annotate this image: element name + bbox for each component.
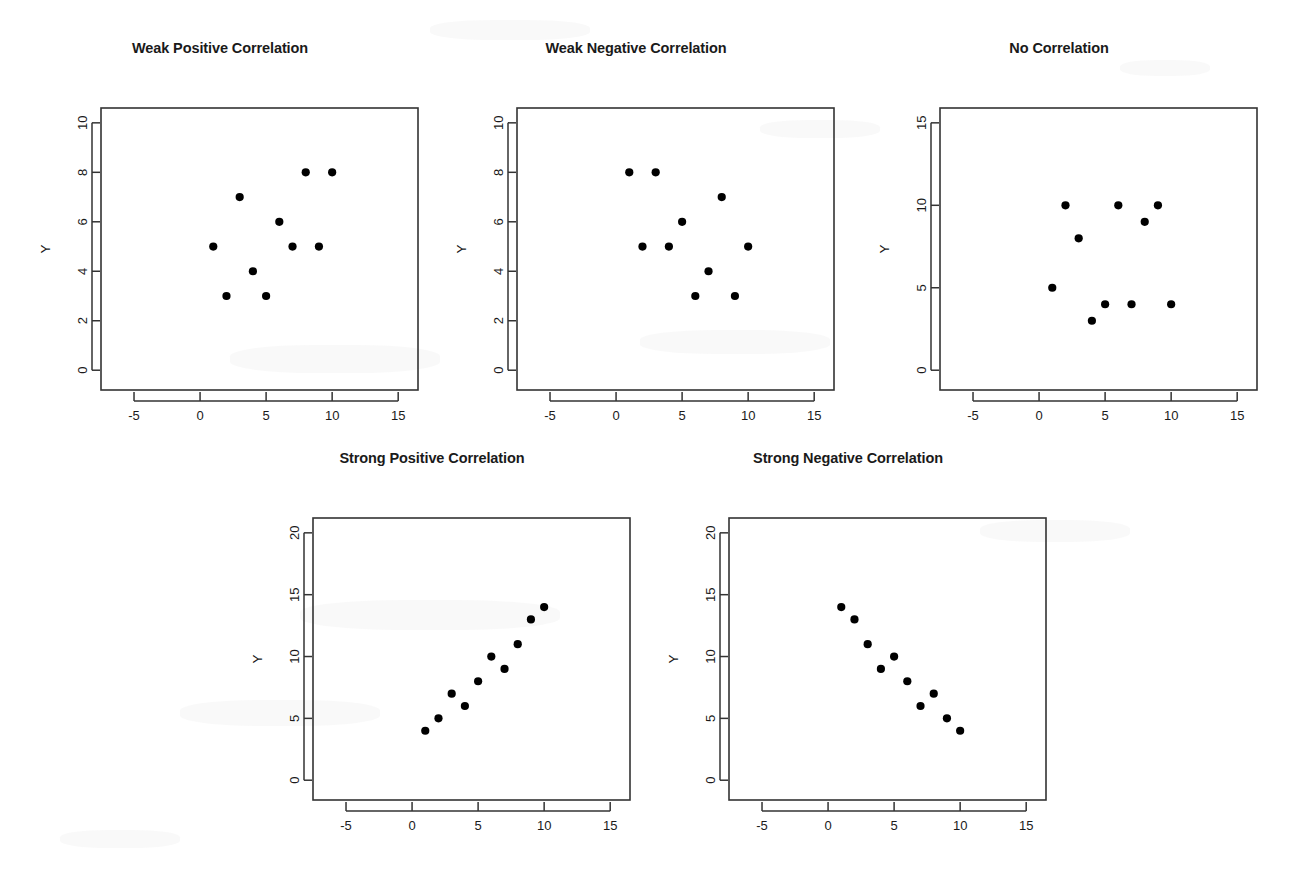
data-point (302, 168, 310, 176)
data-point (916, 702, 924, 710)
y-tick-label: 15 (915, 116, 930, 130)
data-point (540, 603, 548, 611)
y-tick-label: 0 (76, 367, 91, 374)
chart-panel-no-correlation: No Correlation051015-5051015XY (839, 28, 1279, 433)
x-tick-label: 10 (325, 408, 339, 423)
data-point (527, 615, 535, 623)
chart-panel-weak-negative: Weak Negative Correlation0246810-5051015… (416, 28, 856, 433)
y-tick-label: 15 (288, 587, 303, 601)
y-tick-label: 10 (76, 116, 91, 130)
y-axis-title: Y (666, 654, 681, 663)
data-point (236, 193, 244, 201)
y-tick-label: 4 (492, 268, 507, 275)
data-point (1101, 300, 1109, 308)
y-tick-label: 5 (704, 715, 719, 722)
y-tick-label: 0 (704, 777, 719, 784)
data-point (678, 218, 686, 226)
x-tick-label: 15 (603, 818, 617, 833)
data-point (691, 292, 699, 300)
data-point (1154, 201, 1162, 209)
data-point (474, 677, 482, 685)
plot-border (940, 108, 1257, 390)
data-point (315, 242, 323, 250)
plot-area-weak-negative: 0246810-5051015XY (416, 28, 856, 433)
data-point (665, 242, 673, 250)
y-tick-label: 0 (915, 367, 930, 374)
data-point (943, 714, 951, 722)
plot-border (729, 518, 1046, 800)
data-point (434, 714, 442, 722)
y-tick-label: 0 (492, 367, 507, 374)
data-point (850, 615, 858, 623)
x-tick-label: -5 (340, 818, 352, 833)
data-point (718, 193, 726, 201)
scan-artifact (60, 830, 180, 848)
x-tick-label: 0 (824, 818, 831, 833)
data-point (1048, 284, 1056, 292)
x-tick-label: 5 (474, 818, 481, 833)
data-point (275, 218, 283, 226)
data-point (514, 640, 522, 648)
plot-border (517, 108, 834, 390)
data-point (500, 665, 508, 673)
plot-border (313, 518, 630, 800)
chart-panel-strong-negative: Strong Negative Correlation05101520-5051… (628, 438, 1068, 843)
data-point (877, 665, 885, 673)
x-tick-label: 0 (612, 408, 619, 423)
y-tick-label: 2 (76, 317, 91, 324)
y-tick-label: 10 (915, 198, 930, 212)
x-tick-label: 5 (678, 408, 685, 423)
data-point (249, 267, 257, 275)
y-tick-label: 5 (288, 715, 303, 722)
data-point (625, 168, 633, 176)
data-point (744, 242, 752, 250)
y-tick-label: 5 (915, 284, 930, 291)
x-tick-label: -5 (756, 818, 768, 833)
y-tick-label: 0 (288, 777, 303, 784)
y-tick-label: 4 (76, 268, 91, 275)
y-axis-title: Y (877, 244, 892, 253)
data-point (903, 677, 911, 685)
data-point (704, 267, 712, 275)
data-point (638, 242, 646, 250)
data-point (222, 292, 230, 300)
data-point (1061, 201, 1069, 209)
y-tick-label: 10 (288, 649, 303, 663)
x-tick-label: 0 (196, 408, 203, 423)
data-point (1167, 300, 1175, 308)
y-axis-title: Y (454, 244, 469, 253)
data-point (1141, 218, 1149, 226)
data-point (461, 702, 469, 710)
plot-area-no-correlation: 051015-5051015XY (839, 28, 1279, 433)
y-tick-label: 15 (704, 587, 719, 601)
y-tick-label: 20 (288, 526, 303, 540)
x-tick-label: -5 (128, 408, 140, 423)
y-tick-label: 8 (76, 169, 91, 176)
data-point (448, 690, 456, 698)
x-tick-label: 5 (890, 818, 897, 833)
data-point (1127, 300, 1135, 308)
data-point (930, 690, 938, 698)
x-tick-label: 0 (1035, 408, 1042, 423)
y-tick-label: 8 (492, 169, 507, 176)
data-point (262, 292, 270, 300)
data-point (1114, 201, 1122, 209)
y-axis-title: Y (38, 244, 53, 253)
x-tick-label: 5 (1101, 408, 1108, 423)
data-point (328, 168, 336, 176)
x-tick-label: 5 (262, 408, 269, 423)
data-point (731, 292, 739, 300)
data-point (209, 242, 217, 250)
data-point (487, 652, 495, 660)
y-tick-label: 2 (492, 317, 507, 324)
data-point (652, 168, 660, 176)
x-tick-label: 10 (953, 818, 967, 833)
y-axis-title: Y (250, 654, 265, 663)
x-tick-label: 0 (408, 818, 415, 833)
y-tick-label: 10 (492, 116, 507, 130)
plot-area-strong-positive: 05101520-5051015XY (212, 438, 652, 843)
y-tick-label: 6 (76, 218, 91, 225)
x-tick-label: -5 (967, 408, 979, 423)
y-tick-label: 6 (492, 218, 507, 225)
data-point (837, 603, 845, 611)
